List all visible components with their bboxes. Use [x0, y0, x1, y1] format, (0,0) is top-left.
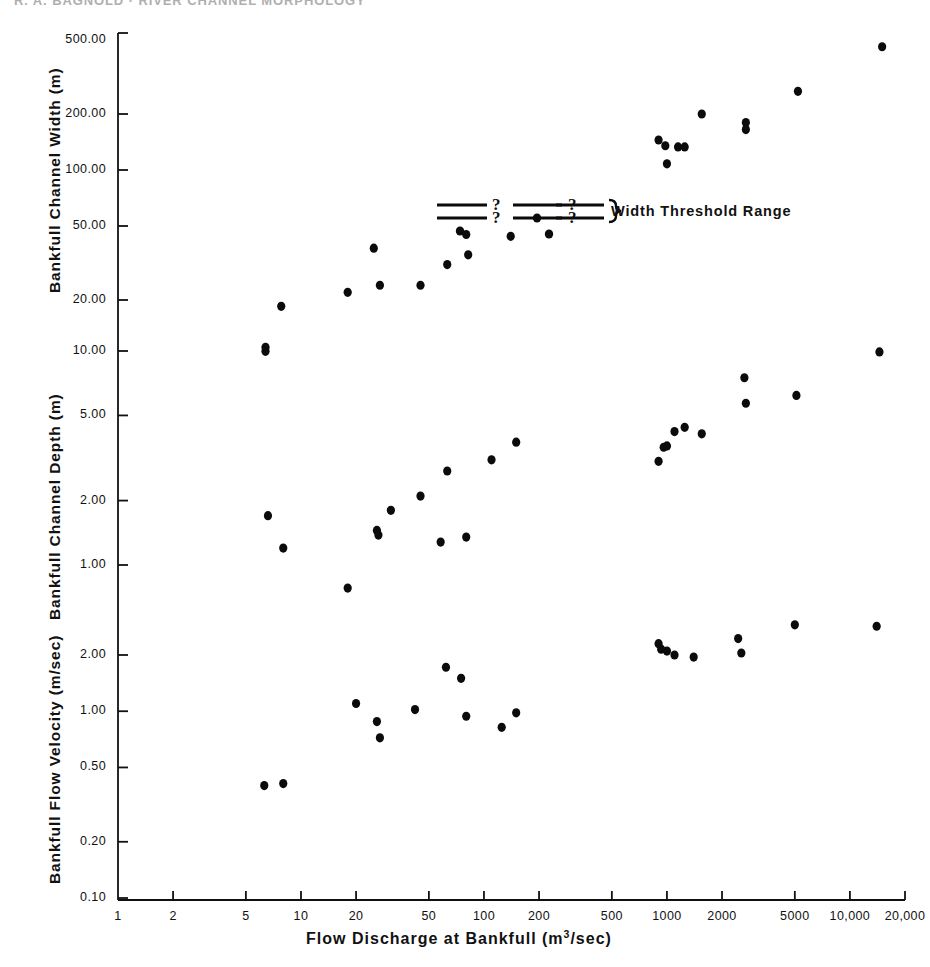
data-point: [512, 708, 520, 717]
data-point: [457, 674, 465, 683]
data-point: [416, 491, 424, 500]
data-point: [279, 543, 287, 552]
data-point: [681, 142, 689, 151]
data-point: [507, 232, 515, 241]
data-point: [442, 663, 450, 672]
data-point: [740, 373, 748, 382]
width-threshold-range-label: Width Threshold Range: [611, 203, 791, 219]
x-tick-label: 20: [322, 909, 390, 923]
data-point: [370, 244, 378, 253]
data-point: [698, 429, 706, 438]
y-tick-label-velocity: 0.20: [40, 834, 106, 848]
data-point: [654, 135, 662, 144]
data-point: [878, 42, 886, 51]
x-tick-label: 20,000: [871, 909, 930, 923]
data-point: [277, 302, 285, 311]
data-point: [261, 343, 269, 352]
y-axis-title-depth: Bankfull Channel Depth (m): [46, 393, 64, 620]
y-tick-label-width: 500.00: [40, 32, 106, 46]
data-point: [387, 506, 395, 515]
data-point: [533, 213, 541, 222]
y-tick-label-width: 200.00: [40, 106, 106, 120]
data-point: [416, 281, 424, 290]
data-point: [264, 511, 272, 520]
data-point: [742, 399, 750, 408]
threshold-question-mark: ?: [568, 209, 577, 226]
threshold-question-mark: ?: [492, 209, 501, 226]
data-point: [681, 423, 689, 432]
data-point: [344, 288, 352, 297]
x-tick-label: 200: [505, 909, 573, 923]
y-tick-label-velocity: 0.10: [40, 890, 106, 904]
y-tick-label-depth: 5.00: [40, 407, 106, 421]
data-point: [376, 281, 384, 290]
data-point: [794, 87, 802, 96]
data-point: [374, 530, 382, 539]
series-velocity: [260, 620, 881, 790]
y-tick-label-depth: 2.00: [40, 493, 106, 507]
data-point: [462, 712, 470, 721]
data-point: [352, 699, 360, 708]
x-axis-title: Flow Discharge at Bankfull (m3/sec): [0, 928, 918, 948]
data-point: [737, 648, 745, 657]
data-point: [260, 781, 268, 790]
data-point: [690, 652, 698, 661]
y-tick-label-velocity: 1.00: [40, 703, 106, 717]
data-point: [376, 733, 384, 742]
x-tick-label: 2000: [688, 909, 756, 923]
x-axis-title-main: Flow Discharge at Bankfull (m: [306, 930, 563, 947]
x-axis-title-tail: /sec): [570, 930, 611, 947]
data-point: [698, 109, 706, 118]
data-point: [654, 457, 662, 466]
y-tick-label-depth: 1.00: [40, 557, 106, 571]
data-point: [661, 141, 669, 150]
y-tick-label-width: 20.00: [40, 292, 106, 306]
data-point: [373, 717, 381, 726]
data-point: [411, 705, 419, 714]
data-point: [873, 622, 881, 631]
x-tick-label: 2: [139, 909, 207, 923]
data-point: [663, 441, 671, 450]
data-point: [498, 723, 506, 732]
data-point: [456, 226, 464, 235]
data-point: [443, 260, 451, 269]
data-point: [791, 620, 799, 629]
data-point: [344, 583, 352, 592]
data-point: [545, 229, 553, 238]
data-point: [512, 438, 520, 447]
data-point: [487, 455, 495, 464]
y-tick-label-velocity: 0.50: [40, 759, 106, 773]
y-axis-title-width: Bankfull Channel Width (m): [46, 67, 64, 293]
data-point: [462, 533, 470, 542]
data-point: [437, 537, 445, 546]
y-tick-label-velocity: 2.00: [40, 647, 106, 661]
series-depth: [261, 343, 883, 593]
data-point: [670, 427, 678, 436]
data-point: [734, 634, 742, 643]
data-point: [464, 250, 472, 259]
data-point: [663, 159, 671, 168]
data-point: [670, 650, 678, 659]
data-point: [663, 646, 671, 655]
data-point: [443, 466, 451, 475]
y-tick-label-width: 100.00: [40, 162, 106, 176]
y-tick-label-depth: 10.00: [40, 343, 106, 357]
data-point: [279, 779, 287, 788]
y-tick-label-width: 50.00: [40, 218, 106, 232]
data-point: [792, 391, 800, 400]
data-point: [875, 347, 883, 356]
data-point: [742, 125, 750, 134]
